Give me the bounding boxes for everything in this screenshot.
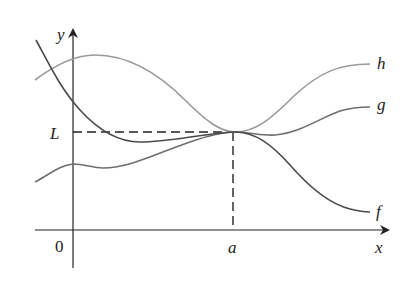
- y-axis-label: y: [55, 25, 65, 44]
- a-label: a: [228, 238, 237, 257]
- x-axis-label: x: [374, 238, 383, 257]
- h-label: h: [377, 54, 386, 73]
- f-label: f: [376, 202, 383, 221]
- L-label: L: [49, 124, 59, 143]
- origin-label: 0: [55, 237, 64, 256]
- squeeze-theorem-diagram: y x 0 L a h g f: [0, 0, 409, 288]
- curve-f: [36, 40, 370, 212]
- g-label: g: [377, 95, 386, 114]
- curve-g: [35, 107, 370, 182]
